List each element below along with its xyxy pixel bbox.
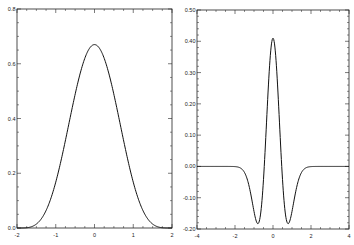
plot-frame	[197, 10, 349, 229]
y-tick-label: 0.2	[8, 170, 16, 176]
figure: -2-10120.00.20.40.60.8 -4-2024-0.20-0.10…	[0, 0, 354, 245]
x-tick-label: -2	[15, 232, 20, 238]
chart-right: -4-2024-0.20-0.100.000.100.200.300.400.5…	[183, 7, 351, 239]
y-tick-label: 0.40	[185, 38, 196, 44]
data-line	[197, 38, 349, 224]
y-tick-label: -0.10	[183, 195, 196, 201]
x-tick-label: 0	[93, 232, 96, 238]
y-tick-label: 0.4	[8, 116, 16, 122]
x-tick-label: 2	[170, 232, 173, 238]
x-tick-label: 4	[347, 233, 350, 239]
tick-labels: -2-10120.00.20.40.60.8	[8, 6, 174, 238]
x-tick-label: -4	[195, 233, 200, 239]
x-tick-label: 0	[271, 233, 274, 239]
y-tick-label: 0.10	[185, 132, 196, 138]
y-tick-label: 0.8	[8, 6, 16, 12]
x-tick-label: -1	[53, 232, 58, 238]
y-tick-label: -0.20	[183, 226, 196, 232]
y-tick-label: 0.30	[185, 70, 196, 76]
y-tick-label: 0.50	[185, 7, 196, 13]
data-line	[17, 45, 172, 228]
chart-left: -2-10120.00.20.40.60.8	[8, 6, 174, 238]
x-tick-label: 1	[132, 232, 135, 238]
y-tick-label: 0.6	[8, 61, 16, 67]
y-tick-label: 0.00	[185, 163, 196, 169]
axis-ticks	[197, 10, 349, 229]
x-tick-label: 2	[309, 233, 312, 239]
y-tick-label: 0.0	[8, 225, 16, 231]
x-tick-label: -2	[233, 233, 238, 239]
axis-ticks	[17, 9, 172, 228]
plot-frame	[17, 9, 172, 228]
y-tick-label: 0.20	[185, 101, 196, 107]
